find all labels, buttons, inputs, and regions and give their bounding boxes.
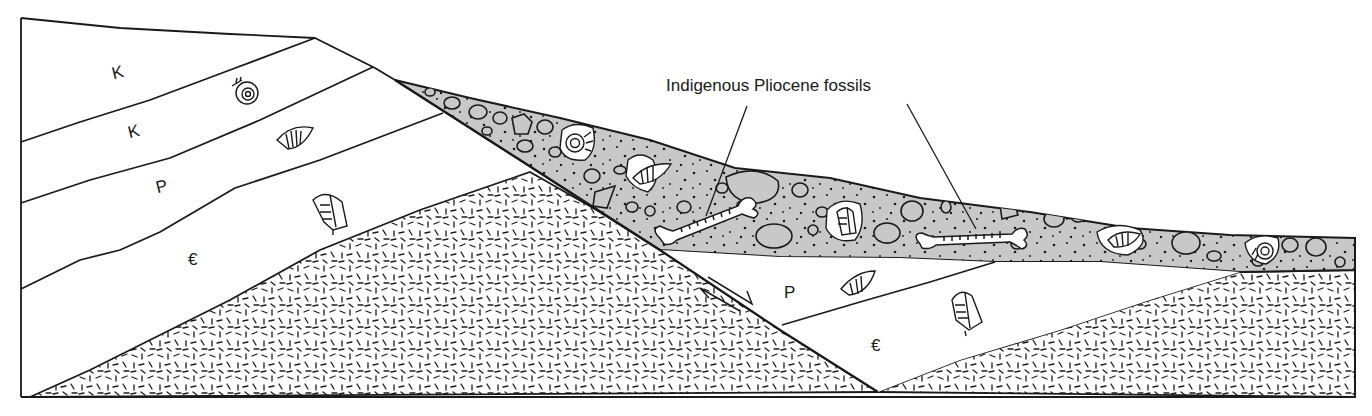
callout-indigenous-fossils: Indigenous Pliocene fossils [666,76,871,96]
unit-label-cambrian-left: € [188,250,197,270]
unit-label-cambrian-right: € [871,336,880,356]
cross-section-diagram [0,0,1372,416]
unit-label-p-right: P [784,283,795,303]
reworked-ammonite-icon [560,124,594,160]
reworked-trilobite-icon [826,201,862,241]
